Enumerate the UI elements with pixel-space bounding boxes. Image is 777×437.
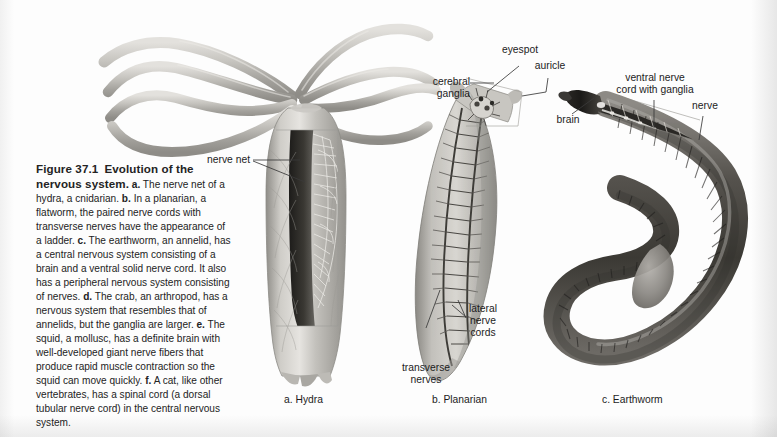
earthworm-head xyxy=(565,90,604,115)
label-auricle: auricle xyxy=(505,60,595,72)
figure-nervous-system-evolution: Figure 37.1 Evolution of the nervous sys… xyxy=(0,0,777,437)
panel-label-hydra: a. Hydra xyxy=(284,394,323,405)
caption-marker: d. xyxy=(83,291,92,302)
label-nerve: nerve xyxy=(678,100,732,112)
figure-caption: Figure 37.1 Evolution of the nervous sys… xyxy=(36,162,232,430)
caption-body: a. The nerve net of a hydra, a cnidarian… xyxy=(36,179,231,428)
label-eyespot: eyespot xyxy=(470,44,570,56)
panel-label-planarian: b. Planarian xyxy=(432,394,487,405)
caption-marker: c. xyxy=(78,235,86,246)
label-transverse-nerves: transverse nerves xyxy=(383,362,469,386)
label-cerebral-ganglia: cerebral ganglia xyxy=(396,76,470,100)
caption-marker: b. xyxy=(122,193,131,204)
label-nerve-net: nerve net xyxy=(150,154,250,166)
label-ventral-nerve-cord: ventral nerve cord with ganglia xyxy=(600,72,710,96)
planarian-eyespot xyxy=(479,97,484,102)
panel-label-earthworm: c. Earthworm xyxy=(602,394,663,405)
label-brain: brain xyxy=(538,114,598,126)
earthworm-illustration xyxy=(557,90,735,360)
caption-marker: e. xyxy=(197,319,205,330)
caption-marker: a. xyxy=(132,179,140,190)
earthworm-brain xyxy=(597,102,605,108)
label-lateral-nerve-cords: lateral nerve cords xyxy=(452,303,514,340)
figure-number: Figure 37.1 xyxy=(36,162,98,175)
caption-marker: f. xyxy=(145,375,151,386)
earthworm-body xyxy=(557,104,735,352)
